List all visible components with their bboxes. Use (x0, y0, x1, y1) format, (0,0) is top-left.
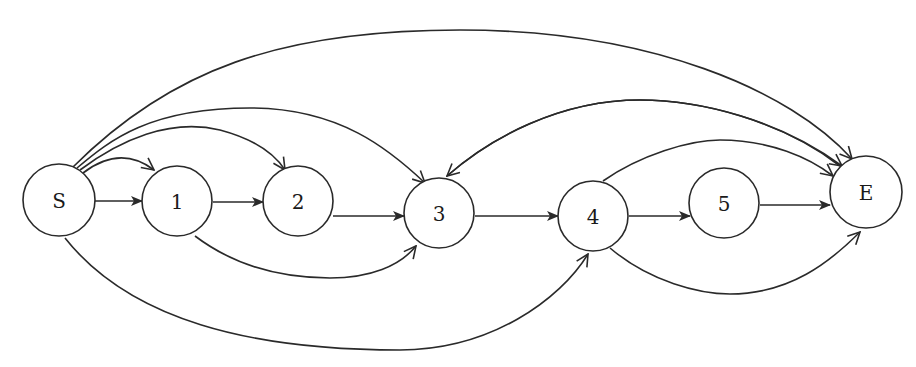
node-label-1: 1 (171, 190, 184, 214)
node-4: 4 (558, 181, 628, 251)
edge-1-3-arc (195, 236, 416, 278)
node-S: S (23, 164, 95, 236)
node-3: 3 (404, 178, 474, 248)
edge-4-E-arc-below (610, 232, 860, 294)
edge-S-E-arc (73, 30, 852, 167)
node-5: 5 (689, 168, 759, 238)
node-label-E: E (859, 181, 874, 205)
node-label-2: 2 (292, 190, 305, 214)
node-label-S: S (52, 189, 66, 213)
node-2: 2 (263, 166, 333, 236)
node-label-5: 5 (718, 192, 731, 216)
nodes: S 1 2 3 4 5 E (23, 156, 902, 251)
edge-S-4-arc (65, 238, 588, 350)
node-E: E (830, 156, 902, 228)
graph-diagram: S 1 2 3 4 5 E (0, 0, 916, 367)
node-label-3: 3 (433, 202, 446, 226)
node-label-4: 4 (587, 205, 600, 229)
edge-3-E-arc (447, 100, 842, 176)
edge-E-3-arc (447, 100, 840, 176)
node-1: 1 (142, 166, 212, 236)
